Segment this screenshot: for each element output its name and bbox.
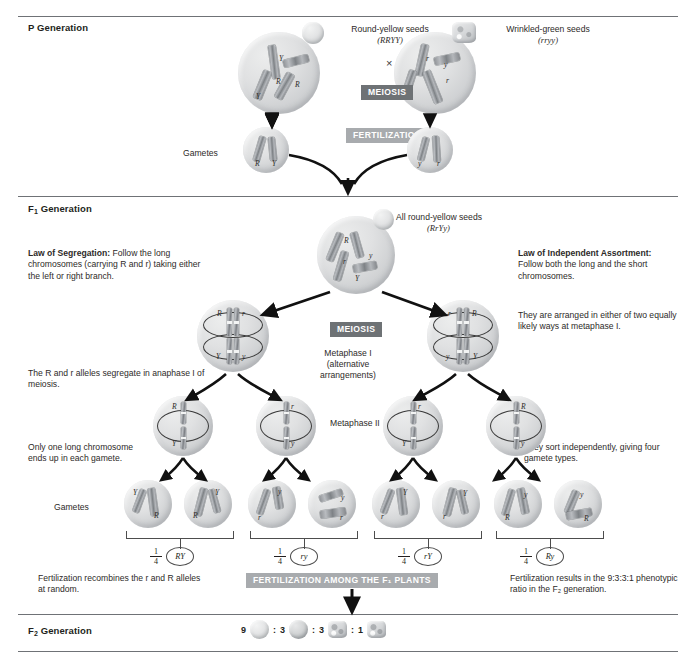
f2-ratio-count-2: 3 (280, 625, 285, 635)
section-title-f1-generation: F1 Generation (28, 203, 92, 214)
allele-label: Y (216, 352, 220, 361)
gamete-bracket-4 (496, 531, 604, 539)
gamete-fraction-2: 1 4 (274, 548, 286, 566)
chromosome (284, 402, 289, 424)
p-parent-right-genotype: (rryy) (484, 35, 612, 46)
allele-label: y (446, 352, 449, 361)
allele-label: r (340, 513, 343, 522)
figure-canvas: P Generation F1 Generation F2 Generation… (0, 0, 696, 653)
allele-label: R (295, 80, 300, 89)
gamete-genotype-3: rY (414, 547, 442, 566)
allele-label: Y (402, 439, 406, 448)
allele-label: r (242, 309, 245, 318)
f1-gamete-cell-3: y r (248, 480, 296, 528)
allele-label: R (172, 402, 177, 411)
gamete-fraction-1: 1 4 (150, 548, 162, 566)
metaphase-i-label: Metaphase I (300, 348, 396, 359)
fraction-numerator: 1 (274, 548, 286, 557)
gamete-fraction-3: 1 4 (398, 548, 410, 566)
wrinkled-seed-icon (367, 621, 386, 638)
metaphase-ii-cell-3: r Y (383, 396, 443, 456)
allele-label: r (426, 54, 429, 63)
chromosome (268, 137, 277, 162)
divider-bottom (18, 651, 678, 652)
allele-label: r (446, 76, 449, 85)
chromosome (457, 308, 462, 336)
allele-label: Y (215, 488, 219, 497)
wrinkled-seed-icon (452, 22, 476, 43)
chromosome (234, 308, 239, 336)
chromosome (181, 402, 186, 424)
fraction-denominator: 4 (150, 557, 162, 566)
f1-gametes-label: Gametes (54, 502, 89, 513)
allele-label: r (381, 512, 384, 521)
allele-label: R (276, 77, 281, 86)
allele-label: y (242, 352, 245, 361)
allele-label: r (418, 402, 421, 411)
banner-meiosis-p: MEIOSIS (361, 85, 413, 100)
f1-gamete-cell-2: Y R (184, 480, 232, 528)
chromosome (350, 231, 365, 258)
fraction-denominator: 4 (274, 557, 286, 566)
chromosome (516, 487, 529, 514)
p-parent-right-cell: r y y r (394, 32, 476, 114)
chromosome (411, 427, 416, 449)
section-title-f2-generation: F2 Generation (28, 625, 92, 636)
note-anaphase: The R and r alleles segregate in anaphas… (28, 368, 208, 391)
chromosome (422, 70, 443, 105)
p-gamete-right-cell: y r (407, 127, 453, 173)
spindle-icon (203, 334, 263, 360)
banner-meiosis-f1: MEIOSIS (330, 322, 382, 337)
cross-symbol: × (386, 58, 392, 69)
allele-label: R (521, 402, 526, 411)
allele-label: Y (463, 489, 467, 498)
note-sort: They sort independently, giving four gam… (524, 442, 674, 465)
p-gametes-label: Gametes (183, 148, 218, 159)
allele-label: R (344, 236, 349, 245)
allele-label: y (524, 490, 527, 499)
allele-label: R (193, 511, 198, 520)
f1-gamete-cell-1: Y R (124, 480, 172, 528)
fraction-numerator: 1 (398, 548, 410, 557)
round-seed-icon (289, 620, 308, 639)
p-parent-right-phenotype: Wrinkled-green seeds (484, 24, 612, 35)
chromosome (411, 402, 416, 424)
chromosome (457, 338, 462, 364)
chromosome (464, 338, 469, 364)
chromosome (514, 427, 519, 449)
chromosome (234, 338, 239, 364)
banner-fertilization-f1-text: FERTILIZATION AMONG THE F₁ PLANTS (253, 575, 431, 585)
divider-top (18, 16, 678, 17)
chromosome (227, 308, 232, 336)
section-title-p-generation: P Generation (28, 22, 88, 33)
allele-label: r (437, 159, 440, 168)
gamete-bracket-1 (126, 531, 234, 539)
f1-gamete-cell-8: y R (554, 480, 602, 528)
gamete-genotype-1: RY (166, 547, 194, 566)
allele-label: y (278, 487, 281, 496)
allele-label: R (255, 159, 260, 168)
gamete-genotype-4: Ry (536, 547, 564, 566)
p-parent-left-cell: Y Y R R (238, 32, 320, 114)
chromosome (227, 338, 232, 364)
allele-label: y (291, 439, 294, 448)
chromosome (256, 489, 271, 516)
allele-label: R (472, 309, 477, 318)
allele-label: y (580, 490, 583, 499)
f1-gamete-cell-5: Y r (372, 480, 420, 528)
f2-ratio-separator-2: : (312, 625, 315, 635)
allele-label: Y (403, 488, 407, 497)
f2-ratio-count-4: 1 (358, 625, 363, 635)
allele-label: y (369, 251, 372, 260)
p-gamete-left-cell: R Y (243, 127, 289, 173)
metaphase-i-cell-left: R r Y y (197, 300, 269, 372)
gamete-bracket-3 (374, 531, 482, 539)
allele-label: r (448, 309, 451, 318)
f1-gamete-cell-6: Y r (432, 480, 480, 528)
round-seed-icon (373, 209, 394, 230)
law-of-segregation-note: Law of Segregation: Follow the long chro… (28, 248, 210, 282)
chromosome (514, 402, 519, 424)
note-recombine: Fertilization recombines the r and R all… (38, 573, 208, 596)
f2-ratio-row: 9 : 3 : 3 : 1 (241, 620, 386, 639)
note-ratio: Fertilization results in the 9:3:3:1 phe… (510, 573, 685, 596)
